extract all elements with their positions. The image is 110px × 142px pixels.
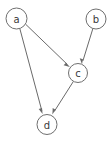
edge-a-to-d-arrowhead — [39, 108, 43, 114]
node-b[interactable]: b — [86, 9, 106, 29]
node-c-label: c — [75, 68, 81, 79]
edge-b-to-c[interactable] — [80, 29, 93, 65]
edge-a-to-d[interactable] — [20, 29, 43, 115]
node-d[interactable]: d — [37, 115, 57, 135]
edge-a-to-c-line — [26, 24, 68, 64]
node-d-label: d — [44, 120, 50, 131]
edge-c-to-d-line — [54, 81, 73, 111]
graph-svg: a b c d — [0, 0, 110, 142]
edge-b-to-c-line — [83, 29, 93, 61]
node-a-label: a — [13, 14, 19, 25]
node-b-label: b — [93, 14, 99, 25]
edge-a-to-d-line — [20, 29, 42, 111]
edge-c-to-d[interactable] — [52, 81, 73, 114]
node-c[interactable]: c — [69, 64, 88, 83]
node-a[interactable]: a — [6, 8, 27, 29]
nodes-layer: a b c d — [6, 8, 106, 135]
graph-canvas: a b c d — [0, 0, 110, 142]
edge-a-to-c[interactable] — [26, 24, 70, 67]
edge-c-to-d-arrowhead — [52, 108, 55, 114]
